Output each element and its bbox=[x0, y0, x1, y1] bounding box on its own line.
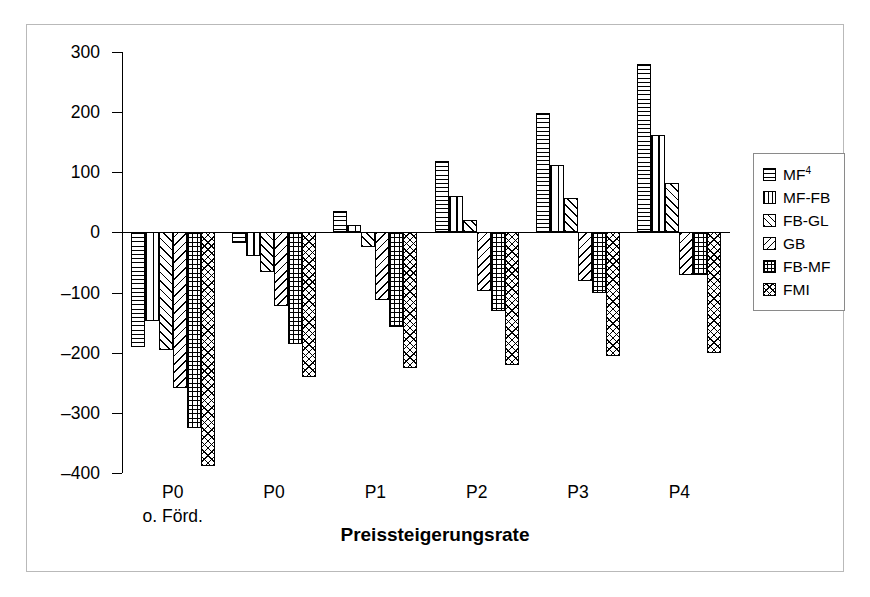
x-tick-label: P1 bbox=[365, 482, 386, 503]
y-tick-mark bbox=[112, 413, 122, 414]
legend-label: FB-GL bbox=[783, 212, 829, 230]
x-tick-label: P3 bbox=[567, 482, 588, 503]
y-tick-label: –100 bbox=[14, 282, 100, 303]
bar bbox=[637, 64, 651, 232]
bar bbox=[288, 232, 302, 343]
x-tick-label: P2 bbox=[466, 482, 487, 503]
bar bbox=[564, 198, 578, 233]
bar bbox=[463, 220, 477, 232]
x-tick-label: P0 bbox=[162, 482, 183, 503]
x-tick-sublabel: o. Förd. bbox=[143, 506, 203, 527]
legend-item: MF-FB bbox=[763, 186, 836, 209]
bar bbox=[435, 161, 449, 232]
y-tick-mark bbox=[112, 473, 122, 474]
bar bbox=[505, 232, 519, 364]
legend-label: GB bbox=[783, 235, 805, 253]
bar bbox=[536, 113, 550, 232]
legend-swatch-icon bbox=[763, 260, 776, 273]
legend-swatch-icon bbox=[763, 214, 776, 227]
legend-item: GB bbox=[763, 232, 836, 255]
legend-item: FMI bbox=[763, 278, 836, 301]
bar bbox=[274, 232, 288, 305]
bar bbox=[592, 232, 606, 292]
bar bbox=[477, 232, 491, 291]
y-tick-mark bbox=[112, 52, 122, 53]
bar bbox=[389, 232, 403, 327]
y-tick-mark bbox=[112, 232, 122, 233]
bar bbox=[578, 232, 592, 280]
bar bbox=[606, 232, 620, 355]
bar bbox=[375, 232, 389, 299]
legend-swatch-icon bbox=[763, 168, 776, 181]
chart-figure: [€/ha LF] 3002001000–100–200–300–400 P0o… bbox=[0, 0, 870, 597]
bar bbox=[131, 232, 145, 346]
x-tick-label: P0 bbox=[263, 482, 284, 503]
legend-swatch-icon bbox=[763, 237, 776, 250]
bar bbox=[651, 135, 665, 232]
legend-item: MF4 bbox=[763, 163, 836, 186]
bar bbox=[333, 211, 347, 232]
bar bbox=[707, 232, 721, 352]
bar bbox=[173, 232, 187, 387]
legend-label: FMI bbox=[783, 281, 810, 299]
legend-label-superscript: 4 bbox=[805, 165, 811, 176]
legend-label: FB-MF bbox=[783, 258, 830, 276]
legend-item: FB-GL bbox=[763, 209, 836, 232]
legend-swatch-icon bbox=[763, 191, 776, 204]
bar bbox=[449, 196, 463, 232]
bar bbox=[246, 232, 260, 256]
bar bbox=[679, 232, 693, 274]
y-tick-label: –200 bbox=[14, 342, 100, 363]
bar bbox=[201, 232, 215, 465]
y-tick-label: –400 bbox=[14, 463, 100, 484]
bar bbox=[693, 232, 707, 274]
bar bbox=[187, 232, 201, 427]
bar bbox=[232, 232, 246, 243]
y-tick-label: 100 bbox=[14, 162, 100, 183]
bar bbox=[302, 232, 316, 376]
bar bbox=[403, 232, 417, 367]
y-tick-label: –300 bbox=[14, 402, 100, 423]
x-axis-title: Preissteigerungsrate bbox=[340, 524, 529, 546]
y-tick-mark bbox=[112, 112, 122, 113]
y-tick-mark bbox=[112, 293, 122, 294]
bar bbox=[347, 225, 361, 232]
bar bbox=[361, 232, 375, 247]
legend-label: MF4 bbox=[783, 165, 811, 184]
bar bbox=[260, 232, 274, 271]
y-tick-mark bbox=[112, 353, 122, 354]
chart-legend: MF4MF-FBFB-GLGBFB-MFFMI bbox=[753, 153, 845, 311]
bar bbox=[665, 183, 679, 232]
y-tick-mark bbox=[112, 172, 122, 173]
legend-swatch-icon bbox=[763, 283, 776, 296]
legend-item: FB-MF bbox=[763, 255, 836, 278]
bar bbox=[159, 232, 173, 349]
x-tick-label: P4 bbox=[669, 482, 690, 503]
legend-label: MF-FB bbox=[783, 189, 830, 207]
y-tick-label: 200 bbox=[14, 102, 100, 123]
y-tick-label: 300 bbox=[14, 42, 100, 63]
bar bbox=[550, 165, 564, 232]
bar bbox=[145, 232, 159, 321]
bar bbox=[491, 232, 505, 310]
y-tick-label: 0 bbox=[14, 222, 100, 243]
plot-area bbox=[122, 52, 730, 473]
